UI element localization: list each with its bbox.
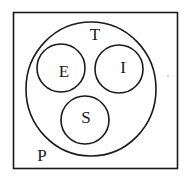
label-p: P [37,146,46,165]
speck-artifact [167,75,169,77]
venn-diagram: T E I S P [0,0,186,177]
label-i: I [120,58,126,77]
diagram-svg: T E I S P [0,0,186,177]
label-s: S [81,108,90,127]
label-e: E [59,62,69,81]
label-t: T [90,25,101,44]
set-circle-i [95,45,143,93]
